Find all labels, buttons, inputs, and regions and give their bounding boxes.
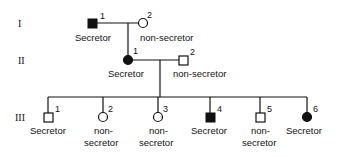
phenotype-label-line2: secretor xyxy=(242,137,276,148)
individual-number: 1 xyxy=(100,11,105,21)
individual-number: 4 xyxy=(217,104,222,114)
individual-number: 2 xyxy=(108,104,113,114)
individual-number: 2 xyxy=(147,10,152,20)
phenotype-label: Secretor xyxy=(30,125,66,136)
phenotype-label-line2: secretor xyxy=(84,137,118,148)
phenotype-label: Secretor xyxy=(108,68,144,79)
female-affected-symbol-III-6 xyxy=(303,113,312,122)
individual-number: 1 xyxy=(133,46,138,56)
individual-number: 2 xyxy=(190,47,195,57)
male-unaffected-symbol-II-2 xyxy=(179,56,188,65)
individual-number: 5 xyxy=(267,104,272,114)
generation-label-II: II xyxy=(18,55,25,66)
male-affected-symbol-III-4 xyxy=(206,113,215,122)
male-unaffected-symbol-III-5 xyxy=(256,113,265,122)
phenotype-label-line2: secretor xyxy=(139,137,173,148)
phenotype-label-line1: non- xyxy=(149,125,168,136)
individual-number: 6 xyxy=(313,104,318,114)
generation-label-III: III xyxy=(15,112,25,123)
phenotype-label: Secretor xyxy=(191,125,227,136)
phenotype-label: non-secretor xyxy=(140,32,193,43)
phenotype-label: Secretor xyxy=(75,32,111,43)
female-affected-symbol-II-1 xyxy=(124,56,133,65)
individual-number: 3 xyxy=(163,104,168,114)
male-affected-symbol-I-1 xyxy=(88,19,97,28)
phenotype-label: Secretor xyxy=(286,125,322,136)
male-unaffected-symbol-III-1 xyxy=(44,113,53,122)
female-unaffected-symbol-III-3 xyxy=(154,113,163,122)
pedigree-diagram: I II III 1 Secretor 2 non-secretor 1 Sec… xyxy=(0,0,339,157)
generation-label-I: I xyxy=(18,18,21,29)
phenotype-label-line1: non- xyxy=(251,125,270,136)
female-unaffected-symbol-III-2 xyxy=(99,113,108,122)
individual-number: 1 xyxy=(55,104,60,114)
phenotype-label-line1: non- xyxy=(94,125,113,136)
phenotype-label: non-secretor xyxy=(173,68,226,79)
